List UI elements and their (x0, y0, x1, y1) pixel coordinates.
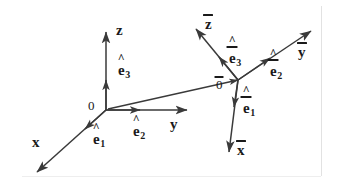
e1-bar-letter: e (243, 101, 250, 116)
basis-vector-e2-bar (238, 58, 270, 80)
origin-label: 0 (88, 99, 95, 112)
bar-accent-e3-bar (227, 46, 238, 48)
axis-label-y: y (170, 117, 178, 132)
e2-bar-letter: e (270, 64, 277, 79)
hat-accent-e3: ^ (118, 52, 125, 64)
bar-accent-e1-bar (241, 96, 252, 98)
y-bar-letter: y (298, 45, 306, 60)
e1-subscript: 1 (100, 138, 105, 149)
e3-bar-letter: e (229, 51, 236, 66)
hat-accent-e1-bar: ^ (243, 84, 250, 96)
e2-bar-group: ^ e (270, 64, 277, 79)
x-bar-group: x (237, 143, 245, 158)
e1-bar-subscript: 1 (250, 107, 255, 118)
bar-accent-y (297, 42, 307, 44)
e1-bar-group: ^ e (243, 101, 250, 116)
x-bar-letter: x (237, 143, 245, 158)
axis-label-x-bar: x (237, 143, 245, 158)
hat-accent-e2-bar: ^ (270, 47, 277, 59)
basis-label-e3: ^ e 3 (118, 63, 130, 80)
e3-hat-group: ^ e (118, 63, 125, 78)
origin-bar-label: 0 (216, 78, 223, 91)
z-bar-letter: z (205, 17, 212, 32)
bar-accent-origin (215, 76, 224, 78)
hat-accent-e2: ^ (133, 113, 140, 125)
hat-accent-e3-bar: ^ (229, 34, 236, 46)
e1-hat-group: ^ e (93, 132, 100, 147)
bar-accent-x (236, 140, 246, 142)
basis-vector-e1-bar (234, 80, 238, 107)
vector-diagram-canvas (0, 0, 338, 192)
e3-letter: e (118, 63, 125, 78)
e1-letter: e (93, 132, 100, 147)
origin-bar-group: 0 (216, 78, 223, 91)
axis-label-z-bar: z (205, 17, 212, 32)
basis-label-e2: ^ e 2 (133, 124, 145, 141)
e2-subscript: 2 (140, 130, 145, 141)
y-bar-group: y (298, 45, 306, 60)
e3-bar-group: ^ e (229, 51, 236, 66)
bar-accent-z (203, 14, 213, 16)
z-bar-group: z (205, 17, 212, 32)
basis-label-e3-bar: ^ e 3 (229, 51, 241, 68)
basis-label-e1: ^ e 1 (93, 132, 105, 149)
origin-bar-letter: 0 (216, 78, 223, 91)
e3-subscript: 3 (125, 69, 130, 80)
e2-bar-subscript: 2 (277, 70, 282, 81)
axis-label-x: x (32, 135, 40, 150)
axis-label-z: z (116, 23, 123, 38)
basis-label-e1-bar: ^ e 1 (243, 101, 255, 118)
e2-hat-group: ^ e (133, 124, 140, 139)
axis-label-y-bar: y (298, 45, 306, 60)
e2-letter: e (133, 124, 140, 139)
coordinate-frames-figure: 0 z y x ^ e 3 ^ e 2 ^ e 1 0 z (0, 0, 338, 192)
hat-accent-e1: ^ (93, 121, 100, 133)
bar-accent-e2-bar (268, 59, 279, 61)
e3-bar-subscript: 3 (236, 57, 241, 68)
basis-label-e2-bar: ^ e 2 (270, 64, 282, 81)
